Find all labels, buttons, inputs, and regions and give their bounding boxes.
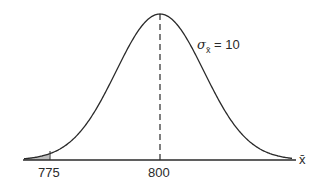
sigma-symbol: σ xyxy=(197,37,206,52)
tail-value-label: 775 xyxy=(38,166,60,179)
sigma-subscript: x̄ xyxy=(206,45,211,55)
mean-value-label: 800 xyxy=(148,166,170,179)
axis-label: x̄ xyxy=(299,153,306,166)
sigma-label: σx̄ = 10 xyxy=(197,38,240,55)
sigma-value: = 10 xyxy=(214,37,240,52)
normal-curve xyxy=(24,14,292,159)
